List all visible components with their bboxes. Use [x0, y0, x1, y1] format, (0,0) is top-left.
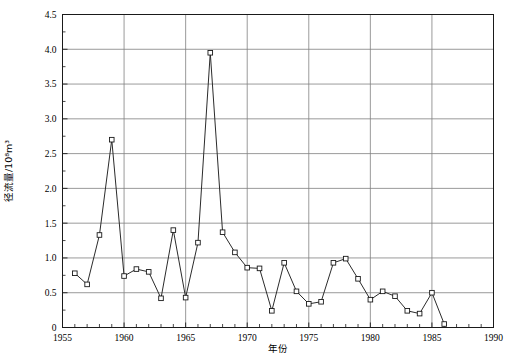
y-tick-label: 1.0: [45, 253, 57, 263]
data-point-marker: [233, 250, 238, 255]
data-point-marker: [430, 290, 435, 295]
y-tick-label: 1.5: [45, 219, 57, 229]
x-tick-label: 1980: [361, 333, 380, 343]
data-point-marker: [356, 277, 361, 282]
data-point-marker: [196, 240, 201, 245]
x-tick-label: 1975: [299, 333, 318, 343]
plot-frame: [63, 15, 494, 328]
data-point-marker: [282, 261, 287, 266]
data-point-marker: [220, 230, 225, 235]
data-point-marker: [183, 295, 188, 300]
x-tick-label: 1965: [176, 333, 195, 343]
y-tick-label: 2.5: [45, 149, 57, 159]
data-point-marker: [270, 309, 275, 314]
data-point-marker: [146, 270, 151, 275]
data-point-marker: [417, 311, 422, 316]
y-tick-label: 4.0: [45, 45, 57, 55]
data-point-marker: [134, 267, 139, 272]
data-point-marker: [393, 294, 398, 299]
x-axis-tick-labels: 19551960196519701975198019851990: [53, 333, 503, 343]
data-point-marker: [442, 322, 447, 327]
y-tick-label: 3.5: [45, 79, 57, 89]
data-point-marker: [73, 271, 78, 276]
y-tick-label: 2.0: [45, 184, 57, 194]
x-tick-label: 1970: [238, 333, 257, 343]
y-axis-title: 径流量/10⁸m³: [3, 140, 14, 202]
y-tick-label: 3.0: [45, 114, 57, 124]
major-ticks-layer: [63, 15, 494, 328]
y-axis-tick-labels: 00.51.01.52.02.53.03.54.04.5: [45, 10, 57, 333]
y-tick-label: 4.5: [45, 10, 57, 20]
data-point-marker: [380, 289, 385, 294]
data-point-marker: [405, 309, 410, 314]
y-tick-label: 0: [52, 323, 57, 333]
grid-layer: [63, 15, 494, 328]
data-point-marker: [257, 266, 262, 271]
x-tick-label: 1955: [53, 333, 72, 343]
runoff-line-chart: 00.51.01.52.02.53.03.54.04.5 19551960196…: [0, 0, 515, 362]
data-point-marker: [208, 50, 213, 55]
x-axis-title: 年份: [268, 343, 288, 354]
data-point-marker: [97, 233, 102, 238]
x-tick-label: 1985: [422, 333, 441, 343]
chart-svg: 00.51.01.52.02.53.03.54.04.5 19551960196…: [0, 0, 515, 362]
x-tick-label: 1960: [115, 333, 134, 343]
minor-ticks-layer: [63, 32, 482, 328]
data-point-marker: [319, 299, 324, 304]
data-point-marker: [343, 256, 348, 261]
data-point-marker: [109, 137, 114, 142]
data-point-marker: [245, 265, 250, 270]
data-point-marker: [331, 261, 336, 266]
data-point-marker: [368, 297, 373, 302]
data-point-marker: [85, 282, 90, 287]
data-point-marker: [306, 302, 311, 307]
data-point-marker: [294, 289, 299, 294]
x-tick-label: 1990: [484, 333, 503, 343]
data-point-marker: [171, 228, 176, 233]
data-point-marker: [159, 296, 164, 301]
data-point-marker: [122, 274, 127, 279]
y-tick-label: 0.5: [45, 288, 57, 298]
